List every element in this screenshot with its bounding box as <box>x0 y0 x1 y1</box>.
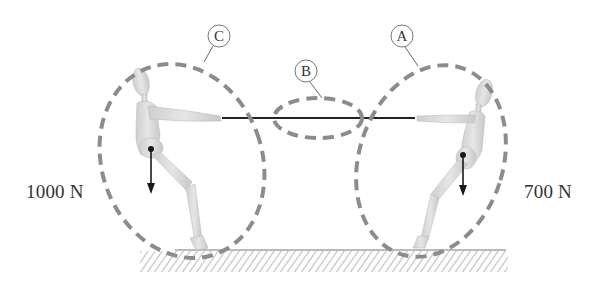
system-boundary-a <box>332 46 530 277</box>
right-weight-label: 700 N <box>524 181 572 203</box>
arrow-head-icon <box>147 183 155 194</box>
right-person-figure <box>413 77 495 248</box>
leader-line-a <box>405 47 418 66</box>
label-c: C <box>208 25 230 47</box>
left-weight-label: 1000 N <box>26 181 84 203</box>
leader-line-c <box>204 46 213 62</box>
ground-hatch <box>140 251 508 272</box>
ground <box>140 250 508 272</box>
label-a: A <box>391 25 413 47</box>
arrow-head-icon <box>459 185 467 196</box>
label-b: B <box>295 60 317 82</box>
svg-text:A: A <box>397 28 408 44</box>
diagram-canvas: C B A <box>0 0 603 282</box>
left-person-figure <box>130 67 221 250</box>
leader-line-b <box>310 82 322 98</box>
system-boundary-c <box>73 41 291 282</box>
svg-text:C: C <box>214 28 224 44</box>
svg-text:B: B <box>301 63 311 79</box>
